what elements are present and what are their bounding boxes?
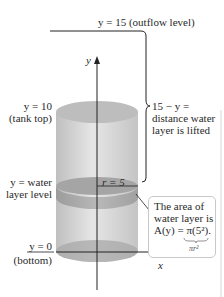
outflow-level-line (50, 31, 146, 36)
area-callout-box: The area of water layer is A(y) = π(5²).… (148, 196, 216, 258)
bottom-label: y = 0 (bottom) (0, 240, 52, 266)
outflow-level-label: y = 15 (outflow level) (98, 16, 195, 28)
radius-label: r = 5 (102, 176, 125, 188)
underbrace-icon (183, 237, 209, 243)
underbrace-label: πr² (189, 244, 199, 253)
distance-label: 15 − y = distance water layer is lifted (152, 100, 215, 136)
y-axis-label: y (86, 54, 91, 66)
distance-brace (142, 36, 150, 182)
tank-top-label: y = 10 (tank top) (0, 100, 52, 124)
water-level-label: y = water layer level (0, 176, 52, 200)
x-axis-label: x (158, 259, 163, 271)
y-axis-arrow-icon (94, 56, 100, 64)
